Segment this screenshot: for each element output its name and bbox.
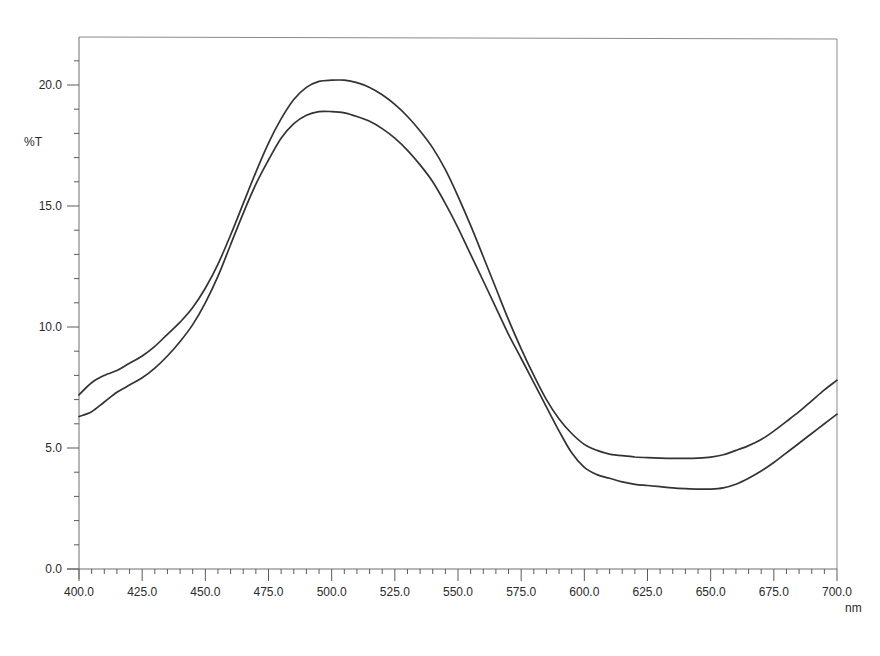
plot-frame bbox=[79, 37, 837, 569]
x-tick-label: 500.0 bbox=[317, 585, 347, 599]
x-tick-label: 700.0 bbox=[822, 585, 852, 599]
y-tick-label: 10.0 bbox=[39, 320, 63, 334]
x-tick-label: 625.0 bbox=[632, 585, 662, 599]
y-tick-label: 15.0 bbox=[39, 199, 63, 213]
y-axis: 0.05.010.015.020.0 bbox=[39, 37, 79, 579]
x-tick-label: 575.0 bbox=[506, 585, 536, 599]
y-tick-label: 5.0 bbox=[45, 441, 62, 455]
x-tick-label: 675.0 bbox=[759, 585, 789, 599]
series-line-spectrum-b bbox=[79, 111, 837, 489]
x-tick-label: 525.0 bbox=[380, 585, 410, 599]
x-tick-label: 650.0 bbox=[696, 585, 726, 599]
x-axis: 400.0425.0450.0475.0500.0525.0550.0575.0… bbox=[64, 569, 852, 599]
x-tick-label: 600.0 bbox=[569, 585, 599, 599]
frame-top-border bbox=[79, 37, 837, 39]
y-tick-label: 20.0 bbox=[39, 78, 63, 92]
x-tick-label: 450.0 bbox=[190, 585, 220, 599]
transmittance-chart: 400.0425.0450.0475.0500.0525.0550.0575.0… bbox=[0, 0, 880, 656]
series-line-spectrum-a bbox=[79, 80, 837, 458]
x-axis-label: nm bbox=[845, 601, 862, 615]
series-group bbox=[79, 80, 837, 489]
x-tick-label: 400.0 bbox=[64, 585, 94, 599]
x-tick-label: 425.0 bbox=[127, 585, 157, 599]
y-axis-label: %T bbox=[24, 135, 43, 149]
x-tick-label: 550.0 bbox=[443, 585, 473, 599]
x-tick-label: 475.0 bbox=[253, 585, 283, 599]
y-tick-label: 0.0 bbox=[45, 562, 62, 576]
